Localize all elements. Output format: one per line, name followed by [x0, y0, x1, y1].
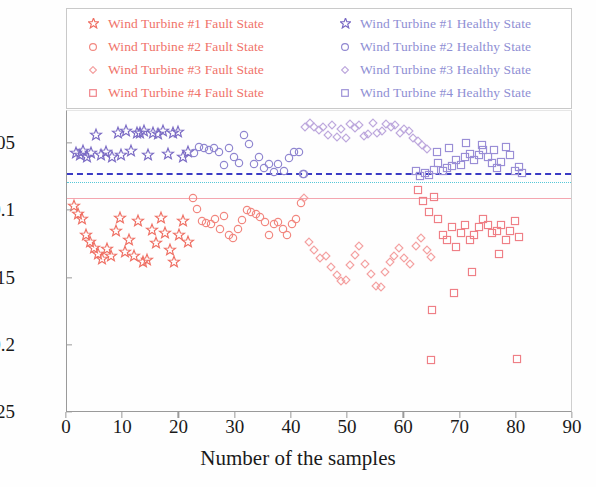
data-point: [115, 150, 127, 162]
data-point: [400, 125, 409, 134]
y-axis-tick-label: -0.25: [0, 401, 24, 423]
data-point: [506, 151, 515, 160]
data-point: [391, 120, 400, 129]
data-point: [417, 234, 426, 243]
data-point: [195, 142, 204, 151]
data-point: [274, 159, 283, 168]
data-point: [160, 228, 172, 240]
data-point: [337, 124, 346, 133]
x-axis-tick-label: 20: [169, 416, 188, 438]
data-point: [355, 120, 364, 129]
data-point: [292, 215, 301, 224]
data-point: [510, 167, 519, 176]
data-point: [92, 249, 104, 261]
data-point: [506, 227, 515, 236]
legend-item-2: Wind Turbine #2 Fault State: [67, 39, 319, 55]
data-point: [497, 220, 506, 229]
data-point: [182, 236, 194, 248]
data-point: [298, 169, 307, 178]
data-point: [128, 250, 140, 262]
data-point: [406, 260, 415, 269]
data-point: [395, 129, 404, 138]
data-point: [470, 231, 479, 240]
data-point: [366, 270, 375, 279]
data-point: [429, 165, 438, 174]
data-point: [225, 231, 234, 240]
data-point: [411, 241, 420, 250]
x-axis-tick-label: 50: [338, 416, 357, 438]
data-point: [279, 167, 288, 176]
data-point: [244, 140, 253, 149]
x-axis-tick-label: 70: [450, 416, 469, 438]
data-point: [456, 228, 465, 237]
legend-item-label: Wind Turbine #1 Fault State: [108, 16, 264, 32]
data-point: [173, 126, 185, 138]
data-point: [355, 242, 364, 251]
data-point: [274, 218, 283, 227]
data-point: [474, 222, 483, 231]
x-axis-tick-mark: [234, 412, 235, 418]
x-axis-tick-mark: [346, 412, 347, 418]
data-point: [131, 127, 143, 139]
data-point: [297, 198, 306, 207]
data-point: [252, 210, 261, 219]
data-point: [74, 150, 86, 162]
legend-item-label: Wind Turbine #4 Healthy State: [360, 85, 531, 101]
data-point: [359, 131, 368, 140]
data-point: [88, 242, 100, 254]
data-point: [142, 254, 154, 266]
data-point: [368, 119, 377, 128]
data-point: [164, 244, 176, 256]
data-point: [301, 123, 310, 132]
data-point: [215, 148, 224, 157]
data-point: [81, 152, 93, 164]
data-point: [101, 243, 113, 255]
circle-marker-icon: [85, 40, 101, 54]
legend-item-label: Wind Turbine #2 Healthy State: [360, 39, 531, 55]
chart-legend: Wind Turbine #1 Fault StateWind Turbine …: [66, 8, 572, 109]
x-axis-tick-mark: [122, 412, 123, 418]
data-point: [97, 253, 109, 265]
data-point: [134, 127, 146, 139]
data-point: [239, 130, 248, 139]
data-point: [106, 152, 118, 164]
data-point: [288, 220, 297, 229]
data-point: [443, 164, 452, 173]
data-point: [346, 119, 355, 128]
data-point: [350, 123, 359, 132]
x-axis-tick-mark: [403, 412, 404, 418]
x-axis-tick-label: 0: [61, 416, 71, 438]
y-axis-tick-label: -0.2: [0, 334, 24, 356]
data-point: [299, 170, 308, 179]
data-point: [447, 223, 456, 232]
data-point: [468, 268, 477, 277]
data-point: [200, 144, 209, 153]
data-point: [305, 119, 314, 128]
data-point: [234, 225, 243, 234]
legend-item-label: Wind Turbine #2 Fault State: [108, 39, 264, 55]
data-point: [96, 150, 108, 162]
data-point: [260, 164, 269, 173]
data-point: [513, 354, 522, 363]
data-point: [216, 224, 225, 233]
data-point: [279, 225, 288, 234]
data-point: [425, 208, 434, 217]
data-point: [515, 163, 524, 172]
data-point: [169, 256, 181, 268]
data-point: [332, 132, 341, 141]
data-point: [178, 152, 190, 164]
chart-root: Wind Turbine #1 Fault StateWind Turbine …: [0, 0, 596, 487]
data-point: [443, 235, 452, 244]
data-point: [386, 123, 395, 132]
x-axis-tick-label: 60: [394, 416, 413, 438]
legend-item-4: Wind Turbine #4 Fault State: [67, 85, 319, 101]
data-point: [400, 254, 409, 263]
data-point: [461, 153, 470, 162]
x-axis-tick-mark: [290, 412, 291, 418]
data-point: [425, 171, 434, 180]
data-point: [137, 256, 149, 268]
data-point: [256, 213, 265, 222]
y-axis-tick-label: -0.05: [0, 132, 24, 154]
x-axis-tick-mark: [65, 412, 66, 418]
data-point: [515, 233, 524, 242]
